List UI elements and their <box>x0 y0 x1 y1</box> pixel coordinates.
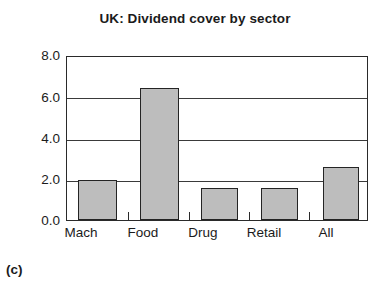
figure-panel: UK: Dividend cover by sector 8.0 6.0 4.0… <box>0 0 390 294</box>
x-tick-label-all: All <box>306 226 346 241</box>
x-tick-label-mach: Mach <box>61 226 101 241</box>
x-tick-label-food: Food <box>123 226 163 241</box>
x-tick-label-drug: Drug <box>183 226 223 241</box>
bar-mach <box>78 180 117 220</box>
x-tick-1 <box>128 212 129 220</box>
y-tick-label-2: 2.0 <box>6 173 60 187</box>
y-tick-label-8: 8.0 <box>6 49 60 63</box>
gridline-4 <box>67 140 367 141</box>
x-tick-3 <box>249 212 250 220</box>
bar-food <box>140 88 179 220</box>
x-tick-label-retail: Retail <box>240 226 288 241</box>
x-tick-4 <box>309 212 310 220</box>
bar-all <box>323 167 359 220</box>
x-tick-2 <box>189 212 190 220</box>
chart-title: UK: Dividend cover by sector <box>0 11 390 26</box>
bar-retail <box>261 188 298 220</box>
bar-drug <box>201 188 238 220</box>
panel-caption: (c) <box>6 262 23 277</box>
plot-area <box>66 56 368 221</box>
y-tick-label-6: 6.0 <box>6 91 60 105</box>
gridline-6 <box>67 98 367 99</box>
y-tick-label-4: 4.0 <box>6 132 60 146</box>
y-tick-label-0: 0.0 <box>6 214 60 228</box>
